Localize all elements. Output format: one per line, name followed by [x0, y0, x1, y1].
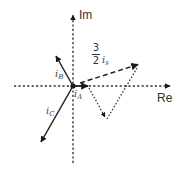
coef-numerator: 3 [92, 43, 100, 53]
coef-denominator: 2 [92, 56, 100, 66]
imag-axis-label: Im [79, 9, 92, 21]
label-iC: iC [46, 106, 55, 118]
real-axis-label: Re [157, 92, 172, 104]
label-iA: iA [74, 89, 82, 101]
vector-iB-shifted [89, 88, 105, 117]
label-is: is [102, 55, 109, 67]
label-is-coefficient: 3 2 [92, 43, 100, 66]
vector-iC-shifted [107, 68, 137, 119]
label-iB: iB [55, 69, 63, 81]
label-is-sub: s [105, 59, 109, 67]
label-iC-sub: C [49, 110, 54, 118]
label-iA-sub: A [77, 93, 82, 101]
label-iB-sub: B [58, 73, 63, 81]
phasor-diagram [0, 0, 183, 172]
